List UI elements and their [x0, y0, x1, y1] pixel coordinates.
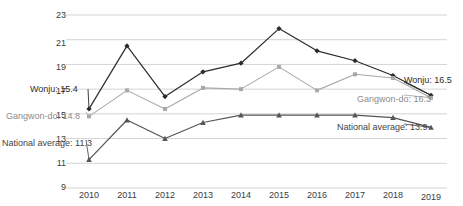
annotation-gangwon-start: Gangwon-do: 14.8 — [6, 111, 80, 121]
data-point — [314, 48, 319, 53]
annotation-leader-line — [88, 89, 89, 109]
line-chart: 23 21 19 17 15 13 11 9 2010 2011 2012 20… — [0, 0, 463, 206]
annotation-national-end: National average: 13.9 — [337, 122, 428, 132]
x-tick-2019: 2019 — [414, 192, 448, 202]
annotation-gangwon-end: Gangwon-do: 16.3 — [357, 94, 431, 104]
x-tick-2012: 2012 — [148, 190, 182, 200]
y-tick-9: 9 — [44, 182, 66, 192]
annotation-wonju-start: Wonju: 15.4 — [30, 84, 78, 94]
series-gangwon-do — [87, 65, 433, 118]
data-point — [353, 72, 357, 76]
y-tick-11: 11 — [44, 158, 66, 168]
data-point — [352, 58, 357, 63]
series-national-average — [86, 112, 434, 162]
x-tick-2014: 2014 — [224, 190, 258, 200]
annotation-wonju-end: Wonju: 16.5 — [404, 75, 452, 85]
data-point — [125, 88, 129, 92]
y-tick-21: 21 — [44, 38, 66, 48]
y-tick-19: 19 — [44, 62, 66, 72]
data-point — [315, 88, 319, 92]
data-point — [201, 86, 205, 90]
x-tick-2015: 2015 — [262, 190, 296, 200]
data-point — [391, 76, 395, 80]
data-point — [239, 87, 243, 91]
x-tick-2017: 2017 — [338, 190, 372, 200]
x-tick-2018: 2018 — [376, 190, 410, 200]
y-tick-23: 23 — [44, 10, 66, 20]
x-tick-2010: 2010 — [72, 190, 106, 200]
series-line — [89, 67, 431, 116]
x-tick-2016: 2016 — [300, 190, 334, 200]
data-point — [163, 107, 167, 111]
annotation-national-start: National average: 11.3 — [2, 138, 92, 148]
x-tick-2013: 2013 — [186, 190, 220, 200]
x-tick-2011: 2011 — [110, 190, 144, 200]
data-point — [277, 65, 281, 69]
data-point — [124, 117, 130, 122]
